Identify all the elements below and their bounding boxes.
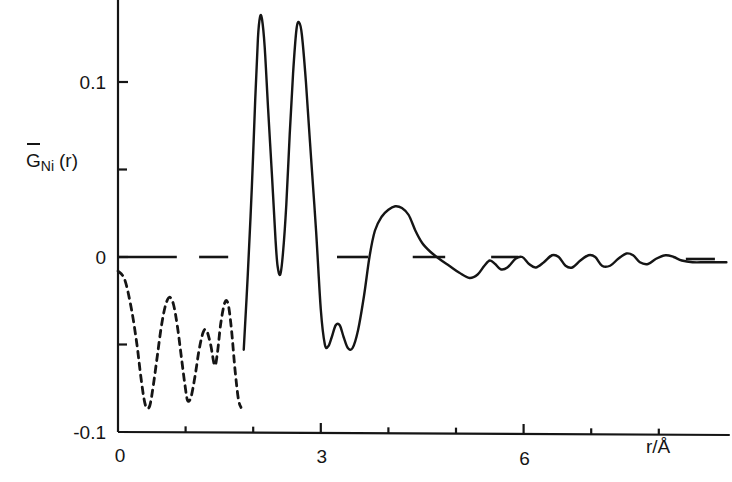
axes-group <box>118 0 730 435</box>
y-axis-label-subscript: Ni <box>41 158 54 174</box>
curve-solid-gni <box>244 15 727 350</box>
curve-dashed-small-r <box>118 271 241 409</box>
x-tick-label-6: 6 <box>519 448 530 469</box>
curve-group <box>118 15 726 409</box>
figure-container: 0.10-0.1036 G Ni(r) r/Å <box>0 0 732 482</box>
y-tick-label-neg0.1: -0.1 <box>73 422 106 443</box>
y-axis-label: G Ni(r) <box>26 150 118 184</box>
y-axis-label-argument: (r) <box>59 150 78 171</box>
zero-line-group <box>118 257 715 259</box>
y-tick-label-0.1: 0.1 <box>80 72 106 93</box>
overbar-decoration <box>27 143 40 145</box>
x-axis-spine <box>118 432 730 435</box>
y-axis-label-symbol: G <box>26 150 41 171</box>
plot-canvas: 0.10-0.1036 <box>0 0 732 482</box>
tick-label-group: 0.10-0.1036 <box>73 72 530 469</box>
x-axis-label: r/Å <box>646 436 670 458</box>
y-tick-label-0: 0 <box>95 247 106 268</box>
x-tick-label-3: 3 <box>317 446 328 467</box>
x-tick-label-0: 0 <box>115 445 126 466</box>
